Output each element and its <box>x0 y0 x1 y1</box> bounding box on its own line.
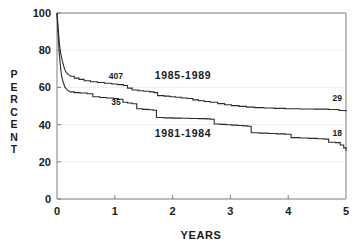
y-axis-title-letter: P <box>10 68 17 80</box>
y-tick-label-20: 20 <box>39 156 51 168</box>
x-tick-label-5: 5 <box>343 205 349 217</box>
y-axis-title-letter: N <box>10 131 18 143</box>
upper-curve-count: 407 <box>109 71 123 81</box>
x-tick-label-0: 0 <box>54 205 60 217</box>
upper-curve-end-count: 29 <box>333 93 343 103</box>
y-axis-title: PERCENT <box>10 68 18 155</box>
y-tick-label-60: 60 <box>39 81 51 93</box>
y-axis-title-letter: C <box>10 106 18 118</box>
y-tick-label-100: 100 <box>33 7 51 19</box>
x-axis-title-label: YEARS <box>181 229 222 241</box>
lower-curve-name: 1981-1984 <box>155 127 212 139</box>
x-tick-label-2: 2 <box>170 205 176 217</box>
y-axis-title-letter: T <box>11 143 18 155</box>
survival-curve-chart: 020406080100 012345 4071985-1989351981-1… <box>0 0 363 244</box>
x-tick-label-4: 4 <box>285 205 292 217</box>
x-tick-label-1: 1 <box>112 205 118 217</box>
y-tick-label-80: 80 <box>39 44 51 56</box>
y-axis-title-letter: E <box>10 118 17 130</box>
y-tick-label-0: 0 <box>45 193 51 205</box>
y-axis-title-letter: R <box>10 93 18 105</box>
chart-canvas: 020406080100 012345 4071985-1989351981-1… <box>0 0 363 244</box>
lower-curve-count: 35 <box>111 97 121 107</box>
y-axis-title-letter: E <box>10 81 17 93</box>
upper-curve-name: 1985-1989 <box>155 69 212 81</box>
y-tick-label-40: 40 <box>39 119 51 131</box>
x-tick-label-3: 3 <box>227 205 233 217</box>
lower-curve-end-count: 18 <box>333 128 343 138</box>
